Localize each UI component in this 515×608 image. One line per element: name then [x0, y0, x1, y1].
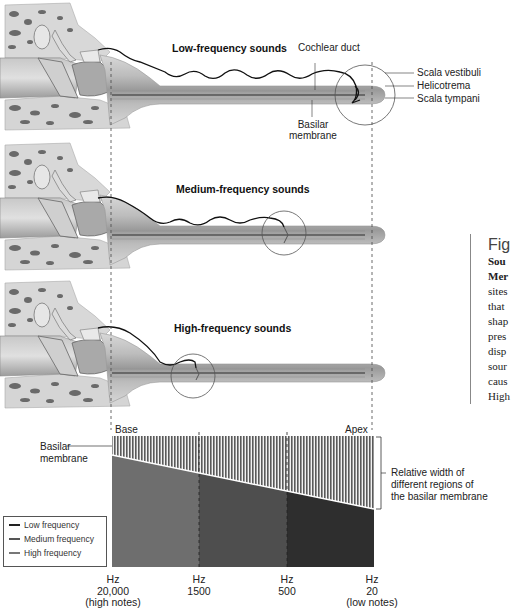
caption-line: High — [488, 389, 515, 404]
panel-low-title: Low-frequency sounds — [172, 42, 287, 54]
basilar-chart-label-2: membrane — [40, 453, 88, 464]
hz-unit: Hz — [332, 574, 412, 586]
caption-line: sites — [488, 284, 515, 299]
basilar-membrane-label-2: membrane — [289, 130, 337, 141]
scala-tympani-label: Scala tympani — [417, 93, 480, 104]
hz-unit: Hz — [73, 574, 153, 586]
caption-line: shap — [488, 314, 515, 329]
scala-vestibuli-label: Scala vestibuli — [417, 67, 481, 78]
apex-label: Apex — [345, 424, 368, 435]
hz-unit: Hz — [247, 574, 327, 586]
hz-note: (low notes) — [332, 597, 412, 608]
caption-line: disp — [488, 344, 515, 359]
legend-swatch-low — [9, 524, 20, 526]
caption-line: that — [488, 299, 515, 314]
legend-label: Low frequency — [24, 520, 79, 530]
hz-label-20000: Hz 20,000 (high notes) — [73, 574, 153, 608]
caption-line: sour — [488, 359, 515, 374]
helicotrema-label: Helicotrema — [417, 80, 470, 91]
panel-high-title: High-frequency sounds — [174, 322, 291, 334]
hz-value: 1500 — [159, 586, 239, 598]
figure-caption: Fig Sou Mer sites that shap pres disp so… — [470, 234, 515, 404]
legend-item-medium: Medium frequency — [9, 534, 94, 544]
legend-swatch-medium — [9, 538, 20, 540]
base-label: Base — [115, 424, 138, 435]
hz-label-1500: Hz 1500 — [159, 574, 239, 597]
hz-label-20: Hz 20 (low notes) — [332, 574, 412, 608]
panel-medium-frequency — [0, 143, 385, 270]
caption-bold-line: Sou — [488, 254, 515, 269]
hz-label-500: Hz 500 — [247, 574, 327, 597]
legend-swatch-high — [9, 552, 20, 554]
relative-width-label-3: the basilar membrane — [391, 491, 488, 502]
cochlea-illustration — [0, 0, 508, 430]
legend-label: High frequency — [24, 548, 81, 558]
caption-line: caus — [488, 374, 515, 389]
panel-low-frequency — [0, 3, 414, 130]
caption-line: pres — [488, 329, 515, 344]
caption-bold-line: Mer — [488, 269, 515, 284]
legend-item-low: Low frequency — [9, 520, 79, 530]
panel-high-frequency — [0, 281, 385, 408]
panel-medium-title: Medium-frequency sounds — [176, 183, 310, 195]
cochlear-duct-label: Cochlear duct — [298, 42, 360, 53]
figure-heading: Fig — [488, 236, 515, 254]
hz-unit: Hz — [159, 574, 239, 586]
relative-width-label-2: different regions of — [391, 479, 474, 490]
basilar-membrane-label: Basilar — [297, 119, 329, 130]
relative-width-label: Relative width of — [391, 467, 464, 478]
legend-item-high: High frequency — [9, 548, 81, 558]
basilar-chart-label: Basilar — [40, 441, 71, 452]
legend-label: Medium frequency — [24, 534, 94, 544]
hz-note: (high notes) — [73, 597, 153, 608]
hz-value: 500 — [247, 586, 327, 598]
legend: Low frequency Medium frequency High freq… — [3, 516, 107, 567]
